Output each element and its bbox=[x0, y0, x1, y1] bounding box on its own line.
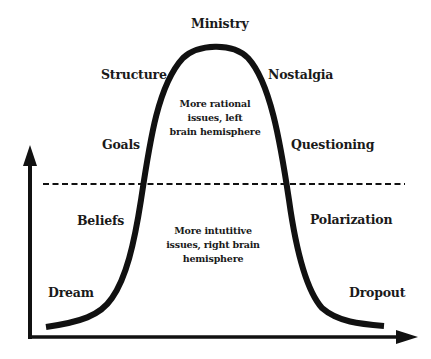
y-axis-arrowhead-icon bbox=[23, 145, 37, 166]
upper-note-line-1: More rational bbox=[160, 97, 270, 111]
stage-label-goals: Goals bbox=[102, 137, 140, 152]
stage-label-questioning: Questioning bbox=[291, 137, 374, 152]
stage-label-ministry: Ministry bbox=[191, 16, 248, 31]
stage-label-nostalgia: Nostalgia bbox=[268, 67, 333, 82]
stage-label-dream: Dream bbox=[48, 285, 94, 300]
upper-note-line-3: brain hemisphere bbox=[160, 125, 270, 139]
lower-region-note: More intutitive issues, right brain hemi… bbox=[158, 224, 268, 266]
bell-curve bbox=[46, 47, 384, 327]
lower-note-line-1: More intutitive bbox=[158, 224, 268, 238]
x-axis-arrowhead-icon bbox=[396, 330, 418, 344]
upper-region-note: More rational issues, left brain hemisph… bbox=[160, 97, 270, 139]
stage-label-structure: Structure bbox=[101, 67, 167, 82]
lower-note-line-3: hemisphere bbox=[158, 252, 268, 266]
stage-label-dropout: Dropout bbox=[349, 285, 405, 300]
lower-note-line-2: issues, right brain bbox=[158, 238, 268, 252]
stage-label-beliefs: Beliefs bbox=[77, 213, 124, 228]
bell-curve-diagram bbox=[0, 0, 431, 359]
stage-label-polarization: Polarization bbox=[310, 212, 392, 227]
upper-note-line-2: issues, left bbox=[160, 111, 270, 125]
